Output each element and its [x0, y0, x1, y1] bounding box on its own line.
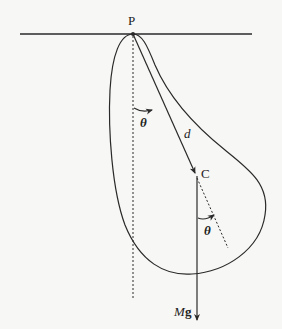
center-of-mass-label: C	[201, 166, 210, 181]
weight-label-gravity: g	[185, 304, 192, 319]
extension-line	[197, 178, 228, 248]
angle-label-bottom: θ	[204, 223, 211, 238]
angle-label-top: θ	[140, 115, 147, 130]
pivot-to-center-line	[133, 34, 195, 173]
angle-arc-top	[134, 108, 152, 111]
pendulum-diagram: P C d θ θ M g	[0, 0, 282, 329]
pivot-label: P	[128, 13, 135, 28]
distance-label: d	[184, 126, 191, 141]
angle-arc-bottom	[198, 215, 214, 219]
rigid-body-outline	[110, 34, 266, 274]
pivot-point	[131, 32, 135, 36]
